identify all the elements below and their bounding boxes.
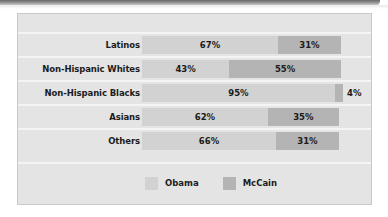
legend-swatch-obama [145,177,158,190]
legend-label-mccain: McCain [243,177,277,190]
chart-panel: Latinos 67% 31% Non-Hispanic Whites 43% … [17,13,372,205]
legend-item-obama[interactable]: Obama [145,177,199,190]
bar-value-obama: 66% [142,132,276,150]
row-bars: 95% 4% [142,84,371,102]
chart-row-non-hispanic-blacks: Non-Hispanic Blacks 95% 4% [18,80,371,104]
legend-item-mccain[interactable]: McCain [223,177,277,190]
legend-label-obama: Obama [165,177,199,190]
row-label: Others [18,130,140,152]
bar-value-mccain: 4% [343,84,377,102]
chart-row-others: Others 66% 31% [18,128,371,152]
bar-value-mccain: 55% [229,60,341,78]
legend-swatch-mccain [223,177,236,190]
row-label: Non-Hispanic Blacks [18,82,140,104]
chart-row-latinos: Latinos 67% 31% [18,32,371,56]
row-bars: 66% 31% [142,132,371,150]
top-accent-fade [0,5,388,9]
bar-value-obama: 43% [142,60,229,78]
chart-rows: Latinos 67% 31% Non-Hispanic Whites 43% … [18,32,371,152]
row-label: Non-Hispanic Whites [18,58,140,80]
row-bars: 62% 35% [142,108,371,126]
chart-legend: Obama McCain [18,162,371,204]
row-bars: 67% 31% [142,36,371,54]
chart-row-asians: Asians 62% 35% [18,104,371,128]
bar-value-mccain: 31% [276,132,339,150]
bar-value-obama: 67% [142,36,278,54]
chart-row-non-hispanic-whites: Non-Hispanic Whites 43% 55% [18,56,371,80]
bar-value-mccain: 31% [278,36,341,54]
bar-value-obama: 62% [142,108,268,126]
row-bars: 43% 55% [142,60,371,78]
row-label: Asians [18,106,140,128]
bar-value-obama: 95% [142,84,335,102]
bar-value-mccain: 35% [268,108,339,126]
row-label: Latinos [18,34,140,56]
bar-segment-mccain[interactable] [335,84,343,102]
